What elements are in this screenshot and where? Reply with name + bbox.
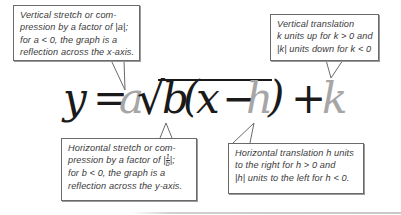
- eq-plus: +: [291, 78, 326, 120]
- callout-horizontal-stretch: Horizontal stretch or com- pression by a…: [61, 138, 197, 201]
- callout-horizontal-translation: Horizontal translation h units to the ri…: [228, 143, 364, 194]
- callout-line: reflection across the y-axis.: [68, 180, 191, 192]
- callout-line: pression by a factor of |a|;: [20, 21, 134, 33]
- callout-line: Vertical translation: [277, 18, 373, 30]
- callout-line: |h| units to the left for h < 0.: [235, 172, 358, 184]
- callout-line-text: pression by a factor of: [68, 155, 161, 165]
- eq-y: y: [63, 78, 87, 120]
- eq-close-paren: ): [268, 76, 284, 118]
- bottom-divider: [130, 212, 401, 214]
- abs-close: |;: [170, 155, 175, 165]
- callout-line: Horizontal translation h units: [235, 147, 358, 159]
- callout-line: for b < 0, the graph is a: [68, 167, 191, 179]
- eq-x: x: [196, 78, 220, 120]
- callout-line: Vertical stretch or com-: [20, 9, 134, 21]
- eq-k-parameter: k: [322, 78, 347, 120]
- callout-vertical-translation: Vertical translation k units up for k > …: [270, 14, 379, 61]
- callout-line: Horizontal stretch or com-: [68, 142, 191, 154]
- callout-line: reflection across the x-axis.: [20, 46, 134, 58]
- callout-line: pression by a factor of |1b|;: [68, 154, 191, 167]
- callout-vertical-stretch: Vertical stretch or com- pression by a f…: [13, 5, 140, 61]
- callout-line: for a < 0, the graph is a: [20, 34, 134, 46]
- callout-line: k units up for k > 0 and: [277, 30, 373, 42]
- callout-line: |k| units down for k < 0: [277, 43, 373, 55]
- callout-line: to the right for h > 0 and: [235, 159, 358, 171]
